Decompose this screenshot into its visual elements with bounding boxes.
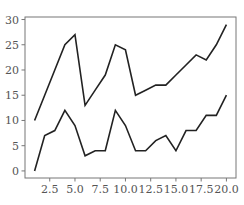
x-tick-label: 2.5: [41, 183, 59, 196]
y-tick-label: 0: [12, 165, 19, 178]
y-tick-label: 15: [5, 89, 19, 102]
y-tick-label: 10: [5, 114, 19, 127]
line-chart: 051015202530 2.55.07.510.012.515.017.520…: [0, 0, 244, 205]
y-tick-label: 25: [5, 39, 19, 52]
series-line-upper: [35, 25, 227, 121]
x-tick-label: 12.5: [138, 183, 163, 196]
y-tick-label: 30: [5, 14, 19, 27]
x-tick-label: 10.0: [113, 183, 138, 196]
x-tick-label: 17.5: [189, 183, 214, 196]
x-tick-label: 7.5: [91, 183, 109, 196]
y-tick-label: 5: [12, 140, 19, 153]
series-layer: [35, 25, 227, 171]
x-tick-label: 15.0: [164, 183, 189, 196]
y-tick-label: 20: [5, 64, 19, 77]
x-axis: 2.55.07.510.012.515.017.520.0: [41, 178, 239, 196]
plot-border: [25, 17, 236, 178]
x-tick-label: 20.0: [214, 183, 239, 196]
x-tick-label: 5.0: [66, 183, 84, 196]
y-axis: 051015202530: [5, 14, 25, 178]
plot-frame: [25, 17, 236, 178]
series-line-lower: [35, 95, 227, 171]
